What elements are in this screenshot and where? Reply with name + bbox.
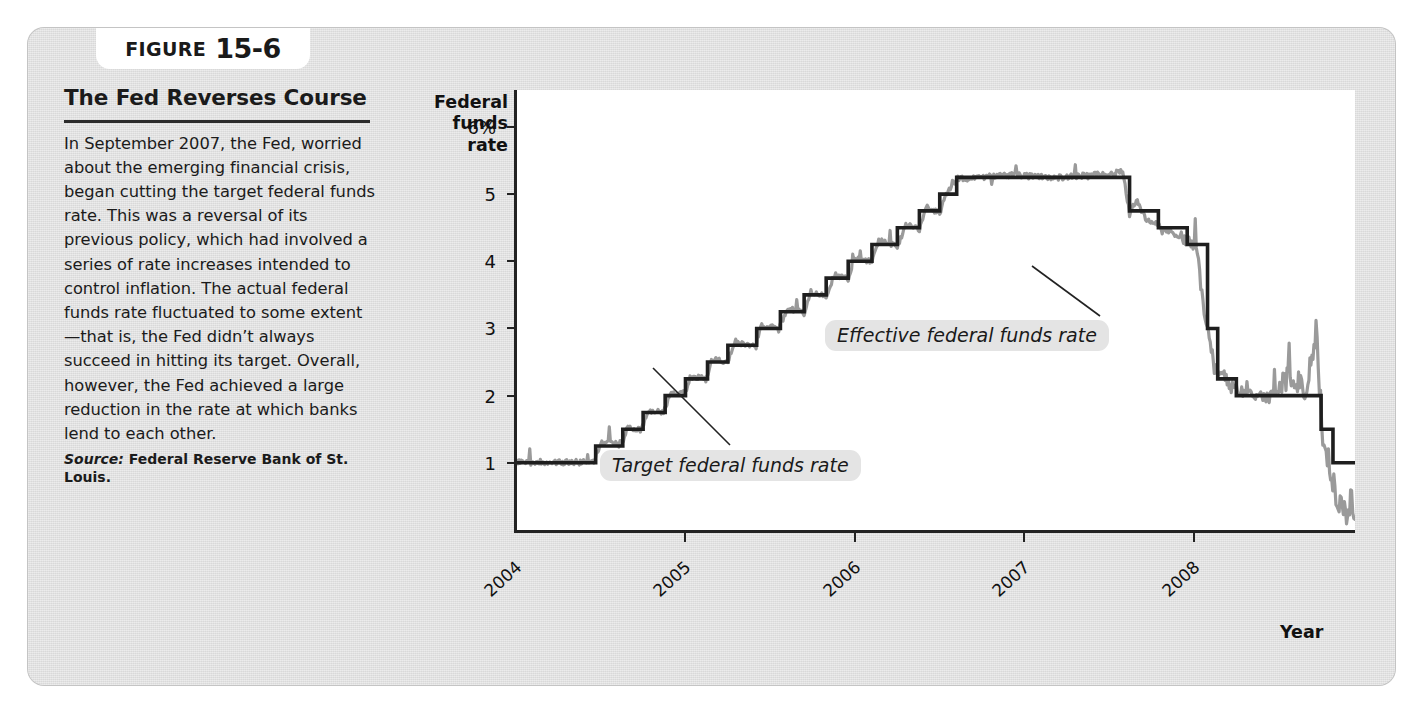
figure-badge-word: FIGURE <box>125 38 206 60</box>
y-tick-label-6pct: 6% <box>400 116 496 137</box>
target-annotation: Target federal funds rate <box>600 450 861 481</box>
x-axis-title: Year <box>1280 622 1323 642</box>
x-tick-label-2007: 2007 <box>989 557 1035 601</box>
y-tick-label-1: 1 <box>400 452 496 473</box>
x-tick-label-2005: 2005 <box>650 557 696 601</box>
y-axis-line <box>514 90 517 530</box>
figure-title: The Fed Reverses Course <box>64 86 376 111</box>
chart: Federalfundsrate Year 6%54321 2004200520… <box>400 80 1395 680</box>
title-divider <box>64 120 370 123</box>
y-tick-label-4: 4 <box>400 251 496 272</box>
y-tick-label-5: 5 <box>400 184 496 205</box>
x-tick-label-2008: 2008 <box>1158 557 1204 601</box>
y-axis-title-line-0: Federal <box>400 92 508 113</box>
x-axis-line <box>514 530 1355 533</box>
figure-badge-number: 15-6 <box>215 33 281 64</box>
x-tick-label-2004: 2004 <box>480 557 526 601</box>
y-tick-label-3: 3 <box>400 318 496 339</box>
figure-body-text: In September 2007, the Fed, worried abou… <box>64 132 376 446</box>
caption-column: The Fed Reverses Course In September 200… <box>64 86 376 486</box>
effective-annotation: Effective federal funds rate <box>825 320 1109 351</box>
figure-badge: FIGURE 15-6 <box>96 28 310 69</box>
y-axis-title-line-2: rate <box>400 135 508 156</box>
figure-screenshot: FIGURE 15-6 The Fed Reverses Course In S… <box>0 0 1418 714</box>
x-tick-label-2006: 2006 <box>819 557 865 601</box>
figure-source: Source: Federal Reserve Bank of St. Loui… <box>64 451 376 486</box>
source-label: Source: <box>64 451 124 467</box>
y-tick-label-2: 2 <box>400 385 496 406</box>
